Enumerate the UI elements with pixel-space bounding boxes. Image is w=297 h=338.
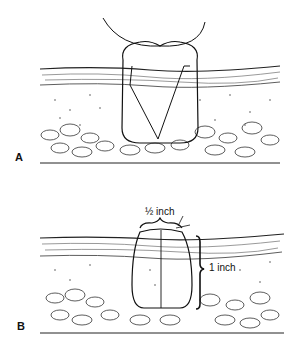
depth-measurement: 1 inch <box>209 262 236 273</box>
width-measurement: ½ inch <box>145 206 174 217</box>
panel-a: A <box>0 0 297 170</box>
suture-diagram-a <box>0 0 297 170</box>
panel-label-b: B <box>17 320 25 332</box>
suture-diagram-b <box>0 170 297 338</box>
panel-label-a: A <box>15 151 23 163</box>
panel-b: ½ inch 1 inch B <box>0 170 297 338</box>
